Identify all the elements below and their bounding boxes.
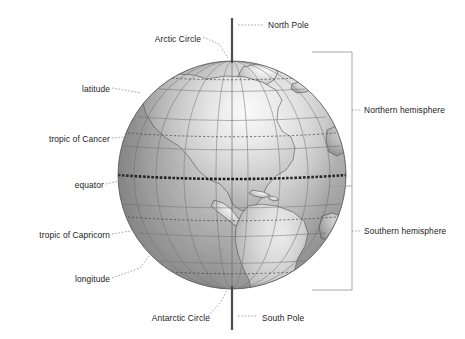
antarctic-circle-leader: [208, 288, 228, 316]
limb-shading: [118, 61, 346, 289]
label-northern-hemisphere: Northern hemisphere: [364, 106, 445, 114]
globe-surface: [118, 61, 354, 320]
label-tropic-of-capricorn: tropic of Capricorn: [39, 231, 110, 239]
latitude-leader: [112, 88, 141, 93]
label-longitude: longitude: [75, 275, 110, 283]
label-south-pole: South Pole: [262, 314, 304, 322]
label-tropic-of-cancer: tropic of Cancer: [49, 135, 110, 143]
label-equator: equator: [75, 181, 104, 189]
arctic-circle-leader: [203, 37, 228, 58]
label-antarctic-circle: Antarctic Circle: [152, 314, 210, 322]
globe-diagram: North Pole Arctic Circle latitude tropic…: [0, 0, 465, 339]
globe-illustration: [0, 0, 465, 339]
label-southern-hemisphere: Southern hemisphere: [364, 227, 446, 235]
label-north-pole: North Pole: [268, 21, 309, 29]
label-latitude: latitude: [82, 85, 110, 93]
label-arctic-circle: Arctic Circle: [155, 35, 201, 43]
